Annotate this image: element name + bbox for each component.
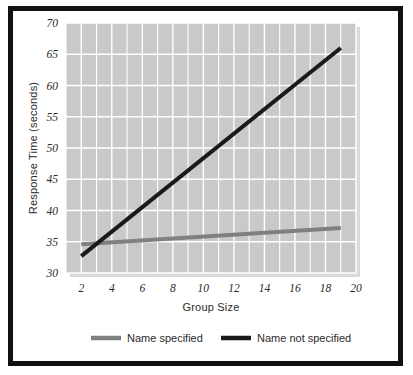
y-tick-label: 35 bbox=[46, 236, 59, 248]
x-tick-label: 2 bbox=[78, 282, 84, 294]
x-tick-label: 20 bbox=[350, 282, 362, 294]
x-tick-labels: 2468101214161820 bbox=[78, 282, 362, 294]
y-tick-label: 65 bbox=[47, 48, 59, 60]
y-tick-labels: 303540455055606570 bbox=[46, 17, 59, 279]
figure-frame: 303540455055606570 2468101214161820 Resp… bbox=[8, 6, 403, 366]
x-tick-label: 12 bbox=[228, 282, 240, 294]
chart-page: 303540455055606570 2468101214161820 Resp… bbox=[0, 0, 413, 375]
y-tick-label: 40 bbox=[47, 205, 59, 217]
y-tick-label: 45 bbox=[47, 173, 59, 185]
y-tick-label: 60 bbox=[47, 80, 59, 92]
x-axis-title: Group Size bbox=[182, 301, 239, 313]
x-tick-label: 10 bbox=[198, 282, 210, 294]
x-tick-label: 16 bbox=[289, 282, 301, 294]
x-tick-label: 18 bbox=[320, 282, 332, 294]
x-tick-label: 14 bbox=[259, 282, 271, 294]
line-chart: 303540455055606570 2468101214161820 Resp… bbox=[13, 11, 398, 361]
y-tick-label: 55 bbox=[47, 111, 59, 123]
legend-label-1: Name not specified bbox=[257, 332, 351, 344]
y-tick-label: 30 bbox=[46, 267, 59, 279]
chart-legend: Name specifiedName not specified bbox=[91, 332, 351, 344]
y-axis-title: Response Time (seconds) bbox=[27, 82, 39, 214]
figure-inner: 303540455055606570 2468101214161820 Resp… bbox=[13, 11, 398, 361]
x-tick-label: 8 bbox=[170, 282, 176, 294]
x-tick-label: 6 bbox=[139, 282, 145, 294]
y-tick-label: 50 bbox=[47, 142, 59, 154]
legend-label-0: Name specified bbox=[127, 332, 203, 344]
x-tick-label: 4 bbox=[109, 282, 115, 294]
y-tick-label: 70 bbox=[47, 17, 59, 29]
